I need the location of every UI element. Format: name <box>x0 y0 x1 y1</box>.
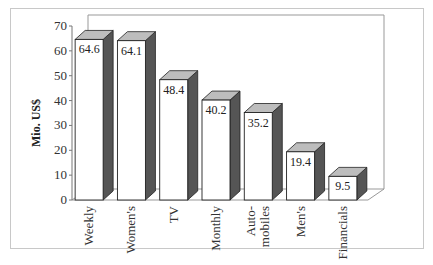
bar-side <box>315 143 325 200</box>
y-tick-label: 10 <box>54 167 67 182</box>
bar <box>75 39 103 200</box>
x-category-label: Weekly <box>81 206 96 246</box>
x-category-label: mobiles <box>257 206 272 247</box>
bar-side <box>145 32 155 200</box>
bar-chart: 010203040506070Mio. US$64.6Weekly64.1Wom… <box>0 0 433 265</box>
x-category-label: Financials <box>335 206 350 259</box>
x-category-label: Women's <box>123 206 138 254</box>
bar-value-label: 9.5 <box>335 179 350 193</box>
y-tick-label: 60 <box>54 43 67 58</box>
y-tick-label: 70 <box>54 18 67 33</box>
y-tick-label: 40 <box>54 93 67 108</box>
x-category-label: Auto- <box>243 206 258 236</box>
bar-value-label: 48.4 <box>163 83 184 97</box>
bar <box>160 80 188 200</box>
bar-side <box>103 30 113 200</box>
y-tick-label: 0 <box>61 192 68 207</box>
bar-value-label: 19.4 <box>290 155 311 169</box>
bar-value-label: 64.1 <box>121 44 142 58</box>
y-axis-label: Mio. US$ <box>29 99 43 147</box>
y-tick-label: 20 <box>54 142 67 157</box>
bar-value-label: 40.2 <box>206 103 227 117</box>
x-category-label: TV <box>166 205 181 223</box>
x-category-label: Men's <box>293 206 308 237</box>
x-category-label: Monthly <box>208 206 223 251</box>
bar <box>117 41 145 200</box>
y-tick-label: 30 <box>54 117 67 132</box>
bar-side <box>272 104 282 200</box>
y-tick-label: 50 <box>54 68 67 83</box>
bar-value-label: 64.6 <box>79 42 100 56</box>
bar-side <box>188 71 198 200</box>
bar-side <box>230 91 240 200</box>
bar-value-label: 35.2 <box>248 116 269 130</box>
